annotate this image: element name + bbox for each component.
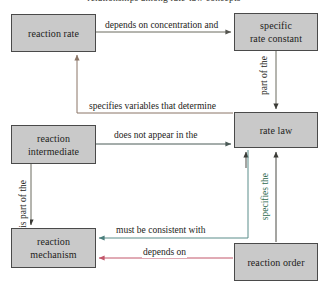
node-rate-law-label: rate law xyxy=(257,124,296,137)
node-reaction-order[interactable]: reaction order xyxy=(234,243,318,281)
node-rate-law[interactable]: rate law xyxy=(234,112,318,148)
node-specific-rate-constant-label: specific rate constant xyxy=(247,19,305,45)
edge-label-constant-to-ratelaw: part of the xyxy=(258,56,271,95)
edge-label-intermediate-to-mechanism: is part of the xyxy=(17,180,30,228)
node-reaction-mechanism[interactable]: reaction mechanism xyxy=(11,228,96,268)
node-reaction-intermediate-label: reaction intermediate xyxy=(25,132,82,158)
node-reaction-order-label: reaction order xyxy=(244,256,307,269)
edge-label-order-to-ratelaw: specifies the xyxy=(259,173,272,220)
edge-label-intermediate-to-ratelaw: does not appear in the xyxy=(113,130,198,141)
node-reaction-rate-label: reaction rate xyxy=(25,27,82,40)
node-reaction-intermediate[interactable]: reaction intermediate xyxy=(11,125,96,164)
edge-label-ratelaw-to-mechanism: must be consistent with xyxy=(115,225,206,236)
edge-label-order-to-mechanism: depends on xyxy=(142,247,187,258)
node-reaction-rate[interactable]: reaction rate xyxy=(11,14,96,52)
node-reaction-mechanism-label: reaction mechanism xyxy=(27,235,79,261)
edge-label-ratelaw-to-rate: specifies variables that determine xyxy=(88,101,217,112)
edge-label-rate-to-constant: depends on concentration and xyxy=(104,20,219,31)
node-specific-rate-constant[interactable]: specific rate constant xyxy=(234,13,318,51)
concept-diagram: relationships among rate-law concepts xyxy=(0,0,328,290)
